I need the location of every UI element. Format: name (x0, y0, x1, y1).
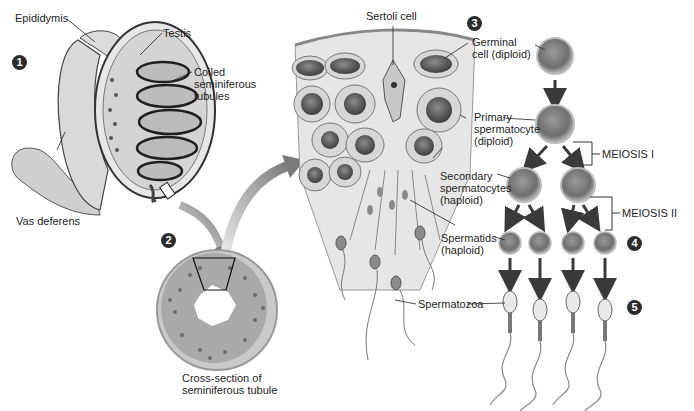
label-cross-section: Cross-section of seminiferous tubule (182, 372, 277, 396)
step-3-badge: 3 (467, 16, 482, 31)
label-primary-spermatocyte: Primary spermatocyte (diploid) (474, 111, 540, 147)
label-spermatids: Spermatids (haploid) (441, 232, 497, 256)
label-epididymis: Epididymis (15, 12, 68, 24)
tubule-cross-section (157, 250, 277, 370)
spermatogenesis-diagram: 1 2 3 4 5 Epididymis Testis Coiled semin… (0, 0, 694, 411)
step-2-badge: 2 (161, 233, 176, 248)
step-1-badge: 1 (12, 55, 27, 70)
label-sertoli-cell: Sertoli cell (366, 10, 417, 22)
meiosis-flow (490, 38, 620, 411)
testis-illustration (12, 22, 215, 215)
step-5-badge: 5 (627, 300, 642, 315)
label-vas-deferens: Vas deferens (16, 215, 80, 227)
step-4-badge: 4 (627, 236, 642, 251)
label-coiled-tubules: Coiled seminiferous tubules (194, 66, 256, 102)
label-meiosis-1: MEIOSIS I (602, 148, 654, 160)
label-germinal-cell: Germinal cell (diploid) (472, 36, 531, 60)
label-spermatozoa: Spermatozoa (418, 298, 483, 310)
diagram-illustration (0, 0, 694, 411)
label-meiosis-2: MEIOSIS II (622, 207, 677, 219)
label-secondary-spermatocytes: Secondary spermatocytes (haploid) (440, 170, 512, 206)
label-testis: Testis (163, 27, 191, 39)
